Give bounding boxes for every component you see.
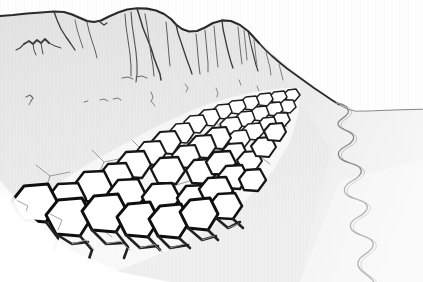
landscape-illustration [0,0,423,282]
illustration-canvas: Rockfall talus deposit at foot of mounta… [0,0,423,282]
